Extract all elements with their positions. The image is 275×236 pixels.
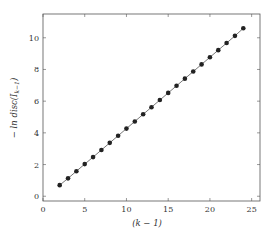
data-point: [107, 141, 112, 146]
x-tick-label: 10: [121, 205, 131, 214]
data-point: [116, 133, 121, 138]
data-point: [66, 176, 71, 181]
data-point: [158, 98, 163, 103]
chart: 0510152025 0246810 (k − 1) − ln disc(Ik−…: [0, 0, 275, 236]
data-point: [166, 91, 171, 96]
y-tick-label: 2: [34, 161, 39, 170]
y-tick-label: 4: [34, 129, 39, 138]
y-tick-label: 8: [34, 65, 39, 74]
y-tick-label: 6: [34, 97, 39, 106]
data-point: [241, 26, 246, 31]
x-tick-label: 0: [40, 205, 45, 214]
data-point: [82, 162, 87, 167]
x-axis-label: (k − 1): [132, 218, 162, 228]
data-point: [74, 169, 79, 174]
data-point: [199, 62, 204, 67]
x-tick-label: 15: [163, 205, 173, 214]
data-point: [183, 76, 188, 81]
x-axis-ticks: 0510152025: [40, 14, 256, 214]
data-point: [174, 83, 179, 88]
data-point: [191, 69, 196, 74]
y-axis-label: − ln disc(Ik−1): [9, 78, 20, 139]
y-tick-label: 0: [34, 192, 39, 201]
data-point: [208, 55, 213, 60]
data-point: [124, 126, 129, 131]
data-point: [233, 34, 238, 39]
data-point: [57, 183, 62, 188]
x-tick-label: 25: [247, 205, 257, 214]
data-point: [133, 119, 138, 124]
data-point: [224, 41, 229, 46]
y-axis-ticks: 0246810: [29, 34, 260, 201]
data-point: [216, 48, 221, 53]
data-point: [141, 112, 146, 117]
data-point: [99, 148, 104, 153]
data-point: [91, 155, 96, 160]
y-tick-label: 10: [29, 34, 39, 43]
x-tick-label: 5: [82, 205, 87, 214]
data-point: [149, 105, 154, 110]
data-series: [57, 26, 245, 187]
x-tick-label: 20: [205, 205, 215, 214]
